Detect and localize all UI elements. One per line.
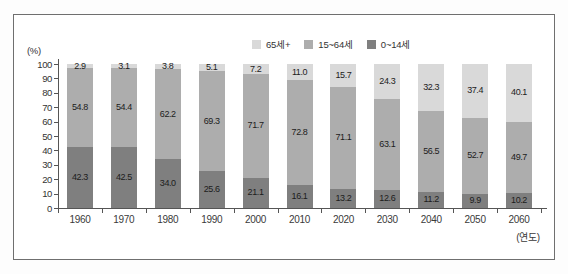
x-axis-tick: [453, 209, 454, 213]
bar-value-label: 13.2: [323, 193, 363, 203]
bar-value-label: 62.2: [148, 109, 188, 119]
x-axis-note-label: (연도): [506, 229, 550, 244]
bar-value-label: 25.6: [192, 184, 232, 194]
bar-value-label: 9.9: [455, 195, 495, 205]
x-axis-category-label: 2060: [497, 214, 541, 225]
bar-value-label: 42.3: [60, 172, 100, 182]
x-axis-category-label: 2050: [453, 214, 497, 225]
y-axis-tick: [54, 194, 58, 195]
y-axis-tick: [54, 64, 58, 65]
bar-value-label: 21.1: [236, 187, 276, 197]
x-axis-category-label: 1960: [58, 214, 102, 225]
y-axis-tick-label: 40: [26, 145, 52, 156]
x-axis-tick: [146, 209, 147, 213]
x-axis-tick: [58, 209, 59, 213]
bar-value-label: 3.1: [104, 61, 144, 71]
bar-value-label: 5.1: [192, 62, 232, 72]
x-axis-tick: [365, 209, 366, 213]
y-axis-tick-label: 100: [26, 59, 52, 70]
bar-value-label: 56.5: [411, 146, 451, 156]
x-axis-category-label: 2040: [409, 214, 453, 225]
bar-value-label: 2.9: [60, 61, 100, 71]
x-axis-category-label: 2030: [365, 214, 409, 225]
bar-value-label: 71.1: [323, 132, 363, 142]
bar-value-label: 40.1: [499, 87, 539, 97]
x-axis-category-label: 2010: [278, 214, 322, 225]
x-axis-category-label: 1980: [146, 214, 190, 225]
y-axis-tick-label: 20: [26, 174, 52, 185]
bar-value-label: 3.8: [148, 61, 188, 71]
bar-value-label: 71.7: [236, 120, 276, 130]
bar-value-label: 42.5: [104, 172, 144, 182]
x-axis-category-label: 1970: [102, 214, 146, 225]
y-axis-tick-label: 80: [26, 87, 52, 98]
bar-value-label: 52.7: [455, 150, 495, 160]
bar-value-label: 24.3: [367, 76, 407, 86]
x-axis-category-label: 2000: [234, 214, 278, 225]
plot-area: 010203040506070809010042.354.82.9196042.…: [14, 15, 554, 259]
y-axis-tick: [54, 107, 58, 108]
x-axis-tick: [102, 209, 103, 213]
bar-value-label: 10.2: [499, 195, 539, 205]
bar-value-label: 12.6: [367, 193, 407, 203]
y-axis-tick: [54, 136, 58, 137]
bar-value-label: 11.0: [280, 67, 320, 77]
x-axis-tick: [234, 209, 235, 213]
bar-value-label: 37.4: [455, 85, 495, 95]
y-axis-tick: [54, 93, 58, 94]
bar-value-label: 54.8: [60, 102, 100, 112]
y-axis-tick: [54, 179, 58, 180]
x-axis-tick: [278, 209, 279, 213]
bar-value-label: 7.2: [236, 64, 276, 74]
y-axis-tick-label: 30: [26, 159, 52, 170]
x-axis-tick: [497, 209, 498, 213]
y-axis-line: [58, 59, 59, 208]
bar-value-label: 15.7: [323, 70, 363, 80]
bar-value-label: 11.2: [411, 194, 451, 204]
bar-value-label: 69.3: [192, 116, 232, 126]
x-axis-tick: [541, 209, 542, 213]
y-axis-tick: [54, 165, 58, 166]
y-axis-tick-label: 90: [26, 73, 52, 84]
bar-value-label: 63.1: [367, 139, 407, 149]
y-axis-tick-label: 50: [26, 131, 52, 142]
bar-value-label: 72.8: [280, 127, 320, 137]
x-axis-line: [58, 208, 547, 209]
y-axis-tick-label: 10: [26, 188, 52, 199]
y-axis-tick-label: 60: [26, 116, 52, 127]
x-axis-tick: [409, 209, 410, 213]
x-axis-tick: [321, 209, 322, 213]
x-axis-category-label: 2020: [321, 214, 365, 225]
y-axis-tick: [54, 122, 58, 123]
bar-value-label: 54.4: [104, 102, 144, 112]
bar-value-label: 32.3: [411, 82, 451, 92]
y-axis-tick-label: 0: [26, 203, 52, 214]
x-axis-category-label: 1990: [190, 214, 234, 225]
x-axis-tick: [190, 209, 191, 213]
bar-value-label: 16.1: [280, 191, 320, 201]
y-axis-tick: [54, 78, 58, 79]
bar-value-label: 34.0: [148, 178, 188, 188]
bar-value-label: 49.7: [499, 152, 539, 162]
chart-frame: 65세+15~64세0~14세 (%) 01020304050607080901…: [13, 14, 555, 260]
y-axis-tick-label: 70: [26, 102, 52, 113]
y-axis-tick: [54, 150, 58, 151]
